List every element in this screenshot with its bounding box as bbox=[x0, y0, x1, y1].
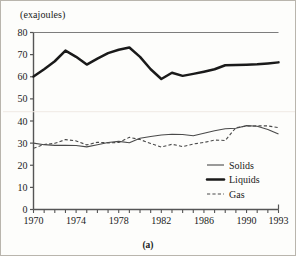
y-tick-label: 20 bbox=[18, 160, 28, 171]
legend-label-liquids: Liquids bbox=[229, 174, 260, 185]
y-tick-label: 30 bbox=[18, 138, 28, 149]
chart-legend: SolidsLiquidsGas bbox=[207, 160, 260, 200]
y-tick-label: 80 bbox=[18, 27, 28, 38]
figure-panel: (exajoules) 01020304050607080 1970197419… bbox=[0, 0, 296, 256]
x-tick-label: 1986 bbox=[194, 215, 214, 226]
x-tick-label: 1970 bbox=[24, 215, 44, 226]
y-tick-label: 0 bbox=[23, 204, 28, 215]
x-axis-ticks: 1970197419781982198619901993 bbox=[24, 210, 289, 227]
x-tick-label: 1978 bbox=[109, 215, 129, 226]
x-tick-label: 1974 bbox=[66, 215, 86, 226]
x-tick-label: 1982 bbox=[151, 215, 171, 226]
figure-caption: (a) bbox=[1, 240, 295, 250]
series-lines bbox=[34, 48, 279, 149]
x-tick-label: 1993 bbox=[269, 215, 289, 226]
y-tick-label: 70 bbox=[18, 49, 28, 60]
series-line-gas bbox=[34, 126, 279, 148]
line-chart: 01020304050607080 1970197419781982198619… bbox=[1, 1, 296, 256]
y-tick-label: 60 bbox=[18, 71, 28, 82]
series-line-liquids bbox=[34, 48, 279, 79]
y-tick-label: 40 bbox=[18, 116, 28, 127]
series-line-solids bbox=[34, 126, 279, 147]
y-axis-ticks: 01020304050607080 bbox=[18, 27, 34, 215]
y-tick-label: 50 bbox=[18, 93, 28, 104]
y-tick-label: 10 bbox=[18, 182, 28, 193]
x-tick-label: 1990 bbox=[237, 215, 257, 226]
legend-label-gas: Gas bbox=[229, 189, 245, 200]
legend-label-solids: Solids bbox=[229, 160, 254, 171]
